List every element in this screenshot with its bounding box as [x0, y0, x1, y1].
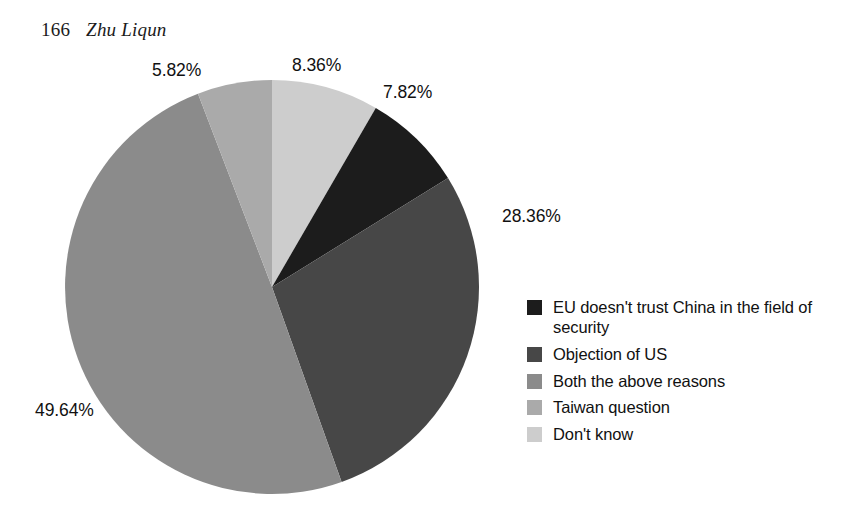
pie-label-both-reasons: 49.64% — [35, 400, 94, 421]
legend-swatch-icon — [527, 400, 542, 415]
legend-item: Don't know — [527, 424, 857, 444]
legend-item-label: Taiwan question — [553, 397, 670, 417]
legend-swatch-icon — [527, 427, 542, 442]
legend-item-label: EU doesn't trust China in the field of s… — [553, 297, 833, 337]
pie-chart-plot-area — [65, 80, 479, 494]
pie-label-eu-distrust: 7.82% — [383, 82, 432, 103]
pie-label-dont-know: 8.36% — [292, 55, 341, 76]
legend-item: Both the above reasons — [527, 371, 857, 391]
legend-swatch-icon — [527, 300, 542, 315]
pie-label-taiwan-question: 5.82% — [152, 60, 201, 81]
legend-item-label: Objection of US — [553, 344, 667, 364]
legend-item: Taiwan question — [527, 397, 857, 417]
pie-slice-group — [65, 80, 479, 494]
legend-swatch-icon — [527, 374, 542, 389]
pie-chart-svg — [65, 80, 479, 494]
pie-label-objection-of-us: 28.36% — [502, 206, 561, 227]
legend-item: EU doesn't trust China in the field of s… — [527, 297, 857, 337]
pie-chart-figure: 8.36% 7.82% 28.36% 49.64% 5.82% EU doesn… — [0, 0, 865, 511]
page-canvas: 166Zhu Liqun 8.36% 7.82% 28.36% 49.64% 5… — [0, 0, 865, 511]
legend-item-label: Both the above reasons — [553, 371, 725, 391]
chart-legend: EU doesn't trust China in the field of s… — [527, 297, 857, 450]
legend-item: Objection of US — [527, 344, 857, 364]
legend-swatch-icon — [527, 347, 542, 362]
legend-item-label: Don't know — [553, 424, 633, 444]
